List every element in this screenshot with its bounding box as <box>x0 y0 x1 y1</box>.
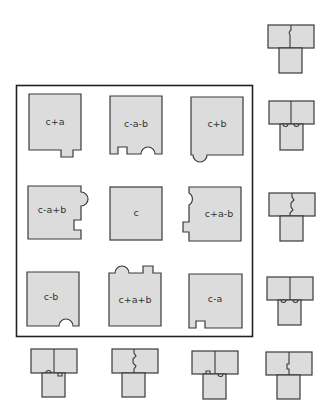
tile-label: c+a-b <box>205 208 233 219</box>
tile-label: c-a <box>208 293 222 304</box>
tile-label: c+a+b <box>119 294 152 305</box>
tile-label: c+b <box>207 118 226 129</box>
tile-c-minus-b: c-b <box>27 272 79 326</box>
tile-c-minus-a: c-a <box>189 274 242 328</box>
tile-c: c <box>110 187 162 240</box>
tile-c-plus-a: c+a <box>29 94 81 157</box>
tile-label: c-a+b <box>38 204 66 215</box>
assembly-right-5 <box>266 352 312 399</box>
assembly-right-3 <box>269 193 315 241</box>
tile-label: c+a <box>45 116 64 127</box>
tile-c-plus-b: c+b <box>191 97 243 162</box>
assembly-right-4 <box>267 277 313 325</box>
assembly-right-2 <box>269 101 314 150</box>
tile-c-minus-a-plus-b: c-a+b <box>28 186 88 239</box>
assembly-bottom-1 <box>31 349 77 397</box>
algebra-tile-diagram: c+a c-a-b c+b c-a+b c c+a-b c-b c+a+b c-… <box>0 0 334 417</box>
tile-label: c-a-b <box>124 118 148 129</box>
assembly-right-1 <box>268 25 314 73</box>
tile-c-plus-a-plus-b: c+a+b <box>109 266 161 326</box>
tile-c-minus-a-minus-b: c-a-b <box>110 96 162 154</box>
assembly-bottom-3 <box>192 351 238 399</box>
tile-c-plus-a-minus-b: c+a-b <box>183 187 241 241</box>
assembly-bottom-2 <box>112 349 158 397</box>
tile-label: c-b <box>44 291 59 302</box>
tile-label: c <box>133 207 138 218</box>
